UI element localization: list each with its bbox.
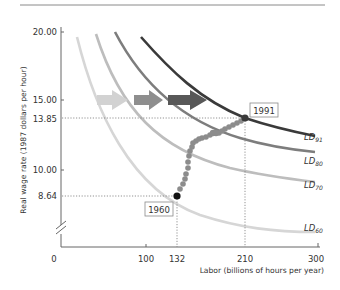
y-tick-10: 10.00 — [33, 165, 57, 175]
point-1991 — [241, 114, 248, 121]
x-tick-132: 132 — [169, 254, 185, 264]
y-axis-title: Real wage rate (1987 dollars per hour) — [19, 66, 28, 213]
y-tick-864: 8.64 — [38, 191, 57, 201]
y-tick-20: 20.00 — [33, 27, 57, 37]
y-tick-15: 15.00 — [33, 95, 57, 105]
axes — [56, 27, 320, 247]
label-ld60: LD60 — [304, 223, 323, 234]
label-1991-box: 1991 — [250, 103, 278, 117]
x-axis-title: Labor (billions of hours per year) — [200, 266, 324, 275]
labor-demand-chart: 1960 1991 20.00 15.00 13.85 10.00 8.64 0… — [0, 0, 340, 290]
x-tick-210: 210 — [237, 254, 253, 264]
equilibrium-trail — [177, 118, 244, 192]
x-tick-100: 100 — [138, 254, 154, 264]
y-tick-1385: 13.85 — [33, 114, 57, 124]
label-ld80: LD80 — [304, 156, 323, 167]
y-tick-labels: 20.00 15.00 13.85 10.00 8.64 — [33, 27, 57, 201]
reference-lines — [62, 118, 245, 247]
label-1960: 1960 — [148, 205, 170, 215]
label-ld70: LD70 — [304, 180, 323, 191]
x-tick-300: 300 — [308, 254, 324, 264]
x-tick-labels: 0 100 132 210 300 — [51, 254, 324, 264]
point-1960 — [173, 192, 180, 199]
demand-curves — [77, 32, 315, 232]
label-ld91: LD91 — [304, 132, 323, 143]
curve-labels: LD91 LD80 LD70 LD60 — [304, 132, 323, 234]
curve-ld60 — [77, 37, 315, 232]
x-tick-0: 0 — [51, 254, 56, 264]
shift-arrows — [97, 90, 207, 110]
label-1960-box: 1960 — [145, 202, 173, 216]
curve-ld91 — [141, 37, 315, 136]
label-1991: 1991 — [253, 106, 275, 116]
